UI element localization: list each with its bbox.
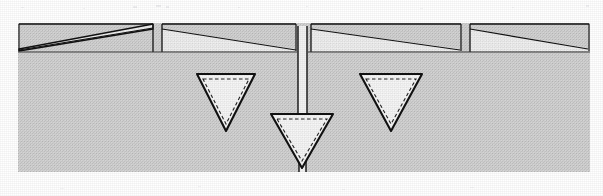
technical-line-drawing bbox=[0, 0, 603, 196]
vertical-channel-stem bbox=[298, 26, 307, 126]
figure-container bbox=[0, 0, 603, 196]
scan-artifacts-bottom bbox=[60, 186, 474, 190]
scan-artifacts-top bbox=[21, 5, 589, 9]
